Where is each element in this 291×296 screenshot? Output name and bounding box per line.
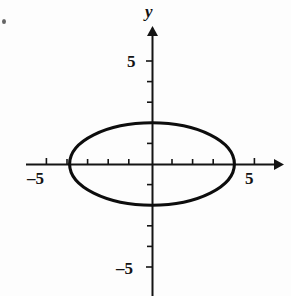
y-tick-label--5: –5 — [116, 260, 133, 277]
y-axis — [147, 26, 158, 296]
y-axis-label: y — [145, 3, 153, 20]
x-tick-label-5: 5 — [245, 170, 254, 187]
coordinate-plane-svg — [0, 0, 291, 296]
y-axis-arrow-icon — [147, 26, 158, 36]
x-axis-arrow-icon — [274, 159, 284, 170]
x-tick-label--5: –5 — [27, 170, 44, 187]
graph-figure: y –5 5 5 –5 — [0, 0, 291, 296]
y-tick-label-5: 5 — [127, 53, 136, 70]
scan-artifact-speck — [2, 19, 6, 24]
